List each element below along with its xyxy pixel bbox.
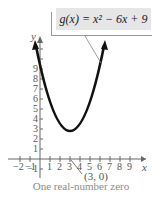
svg-text:9: 9	[33, 63, 38, 74]
caption: One real-number zero	[0, 180, 162, 192]
y-axis-arrow-icon	[37, 36, 43, 43]
curve-arrow-right-icon	[101, 40, 108, 50]
svg-text:6: 6	[33, 93, 38, 104]
svg-text:2: 2	[57, 161, 62, 172]
svg-text:1: 1	[33, 143, 38, 154]
svg-text:9: 9	[127, 161, 132, 172]
parabola-curve	[36, 46, 104, 131]
svg-text:3: 3	[67, 161, 72, 172]
svg-text:3: 3	[33, 123, 38, 134]
svg-text:−1: −1	[27, 163, 38, 174]
svg-text:5: 5	[33, 103, 38, 114]
svg-text:8: 8	[33, 73, 38, 84]
svg-text:4: 4	[33, 113, 38, 124]
svg-text:2: 2	[33, 133, 38, 144]
equation-pointer	[85, 36, 101, 63]
y-axis-label: y	[30, 30, 36, 42]
svg-text:1: 1	[47, 161, 52, 172]
svg-text:−2: −2	[13, 161, 24, 172]
svg-text:8: 8	[117, 161, 122, 172]
x-axis-label: x	[141, 161, 147, 173]
y-tick-labels: −1 123 456 789	[27, 63, 38, 174]
parabola-chart: −2−1 123 456 789 −1 123 456 789 y x (3, …	[0, 0, 162, 197]
svg-text:7: 7	[33, 83, 38, 94]
